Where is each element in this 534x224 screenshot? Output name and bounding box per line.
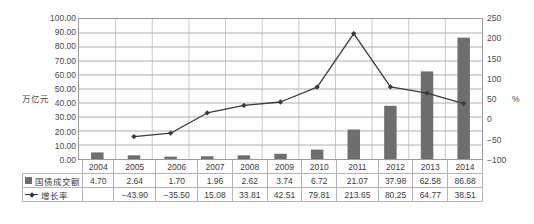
table-cell-bar-value: 21.07: [337, 174, 379, 188]
table-cell-year: 2014: [448, 160, 483, 174]
table-cell-bar-value: 6.72: [302, 174, 337, 188]
line-series-marker-icon: [25, 191, 38, 198]
bar: [457, 38, 469, 159]
line-marker: [278, 99, 283, 104]
table-cell-line-value: 38.51: [448, 188, 483, 202]
table-row-bar: 国债成交额 4.702.641.701.962.623.746.7221.073…: [23, 174, 483, 188]
table-cell-year: 2006: [156, 160, 198, 174]
data-table: 2004200520062007200820092010201120122013…: [22, 160, 483, 202]
table-cell-year: 2011: [337, 160, 379, 174]
y-axis-left-tick: 50.00: [55, 84, 76, 94]
table-cell-line-value: 15.08: [198, 188, 233, 202]
bar-series-label: 国债成交额: [35, 175, 80, 187]
bar: [128, 155, 140, 159]
table-cell-line-value: 64.77: [413, 188, 448, 202]
table-cell-year: 2010: [302, 160, 337, 174]
table-cell-line-value: −35.50: [156, 188, 198, 202]
table-cell-bar-value: 4.70: [83, 174, 114, 188]
bar: [348, 130, 360, 159]
plot-svg: [79, 19, 482, 159]
y-axis-left-tick: 90.00: [55, 27, 76, 37]
y-axis-right-ticks: −100−50050100150200250: [487, 13, 533, 165]
table-cell-bar-value: 2.64: [114, 174, 156, 188]
bar: [421, 71, 433, 159]
y-axis-left-tick: 20.00: [55, 127, 76, 137]
table-cell-bar-value: 1.96: [198, 174, 233, 188]
y-axis-right-tick: 250: [487, 13, 501, 23]
table-cell-year: 2008: [232, 160, 267, 174]
table-cell-bar-value: 62.58: [413, 174, 448, 188]
bar: [274, 154, 286, 159]
y-axis-left-ticks: 0.0010.0020.0030.0040.0050.0060.0070.008…: [34, 13, 78, 165]
table-cell-line-value: [83, 188, 114, 202]
table-cell-bar-value: 86.68: [448, 174, 483, 188]
table-cell-line-value: 33.81: [232, 188, 267, 202]
y-axis-left-tick: 80.00: [55, 41, 76, 51]
table-cell-bar-value: 37.98: [378, 174, 413, 188]
y-axis-left-tick: 30.00: [55, 112, 76, 122]
y-axis-right-tick: 150: [487, 54, 501, 64]
y-axis-left-tick: 40.00: [55, 98, 76, 108]
y-axis-left-tick: 60.00: [55, 70, 76, 80]
table-cell-bar-value: 3.74: [267, 174, 302, 188]
bar: [384, 106, 396, 159]
table-cell-year: 2013: [413, 160, 448, 174]
line-marker: [241, 103, 246, 108]
bar: [238, 155, 250, 159]
y-axis-right-tick: 0: [487, 114, 492, 124]
table-cell-line-value: 213.65: [337, 188, 379, 202]
table-cell-year: 2005: [114, 160, 156, 174]
table-row-line: 增长率 −43.90−35.5015.0833.8142.5179.81213.…: [23, 188, 483, 202]
y-axis-right-tick: 200: [487, 33, 501, 43]
y-axis-right-tick: 100: [487, 74, 501, 84]
table-corner-cell: [23, 160, 83, 174]
bar-series-swatch-icon: [25, 177, 32, 184]
table-cell-line-value: 80.25: [378, 188, 413, 202]
table-row-years: 2004200520062007200820092010201120122013…: [23, 160, 483, 174]
y-axis-right-tick: −50: [487, 135, 501, 145]
chart-container: 万亿元 % 0.0010.0020.0030.0040.0050.0060.00…: [0, 0, 534, 224]
line-marker: [205, 110, 210, 115]
table-cell-bar-value: 2.62: [232, 174, 267, 188]
table-cell-bar-value: 1.70: [156, 174, 198, 188]
line-series-label: 增长率: [41, 189, 68, 201]
bar: [91, 152, 103, 159]
table-cell-line-value: 42.51: [267, 188, 302, 202]
legend-item-line[interactable]: 增长率: [23, 188, 83, 202]
line-marker: [131, 134, 136, 139]
y-axis-left-tick: 10.00: [55, 141, 76, 151]
table-cell-line-value: 79.81: [302, 188, 337, 202]
y-axis-right-tick: −100: [487, 155, 506, 165]
plot-area: [78, 18, 483, 160]
table-cell-year: 2012: [378, 160, 413, 174]
table-cell-year: 2007: [198, 160, 233, 174]
y-axis-left-tick: 100.00: [50, 13, 76, 23]
bar: [164, 157, 176, 159]
bar: [201, 156, 213, 159]
table-cell-line-value: −43.90: [114, 188, 156, 202]
legend-item-bar[interactable]: 国债成交额: [23, 174, 83, 188]
y-axis-left-tick: 70.00: [55, 56, 76, 66]
table-cell-year: 2009: [267, 160, 302, 174]
table-cell-year: 2004: [83, 160, 114, 174]
y-axis-right-tick: 50: [487, 94, 496, 104]
bar: [311, 150, 323, 159]
